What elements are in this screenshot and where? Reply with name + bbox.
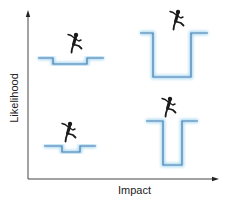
pit-top-left bbox=[38, 58, 104, 64]
pit-top-right bbox=[140, 33, 208, 77]
diagram-canvas bbox=[0, 0, 230, 206]
runner-icon-top-left bbox=[68, 33, 82, 53]
pit-bottom-right bbox=[146, 121, 198, 165]
y-axis-arrow-icon bbox=[26, 10, 30, 17]
y-axis bbox=[26, 10, 30, 179]
runner-icon-bottom-right bbox=[162, 97, 176, 117]
runner-icon-top-right bbox=[170, 10, 184, 30]
x-axis-arrow-icon bbox=[212, 177, 219, 181]
pit-bottom-left bbox=[44, 146, 96, 152]
y-axis-label: Likelihood bbox=[8, 70, 20, 126]
runner-icon-bottom-left bbox=[62, 122, 76, 142]
x-axis bbox=[28, 177, 219, 181]
x-axis-label: Impact bbox=[118, 184, 151, 196]
risk-diagram: Likelihood Impact bbox=[0, 0, 230, 206]
